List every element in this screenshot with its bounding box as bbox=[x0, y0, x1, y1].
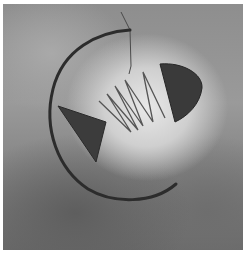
head-disc bbox=[160, 64, 202, 122]
hanging-wire bbox=[121, 12, 131, 74]
tail-fin bbox=[58, 106, 106, 162]
sculpture-photo bbox=[3, 4, 243, 250]
fish-mobile-sculpture bbox=[3, 4, 243, 250]
zigzag-spine bbox=[99, 72, 165, 132]
